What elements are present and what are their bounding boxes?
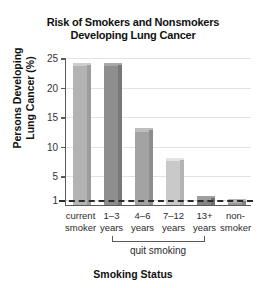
- x-axis-category-line: non-: [220, 210, 251, 222]
- bar-side-face: [87, 65, 91, 205]
- bar-side-face: [180, 160, 184, 205]
- quit-smoking-bracket-label: quit smoking: [82, 245, 235, 256]
- y-axis-tick-mark: [61, 58, 66, 60]
- bar-7-12-years: [166, 158, 184, 205]
- x-axis-category-line: years: [158, 222, 189, 234]
- x-axis-category-line: smoker: [65, 222, 96, 234]
- y-axis-title: Persons Developing Lung Cancer (%): [11, 18, 41, 178]
- y-axis-tick-mark: [61, 88, 66, 90]
- y-axis-tick-label: 5: [52, 171, 58, 182]
- y-axis-title-line-2: Lung Cancer (%): [24, 18, 37, 178]
- bar-1-3-years: [104, 63, 122, 205]
- x-axis-category-line: smoker: [220, 222, 251, 234]
- x-axis-category-label: non-smoker: [220, 210, 251, 233]
- y-gridline: [66, 147, 251, 148]
- x-axis-category-label: 4–6years: [127, 210, 158, 233]
- x-axis-title: Smoking Status: [0, 268, 266, 280]
- y-axis-tick-mark: [61, 147, 66, 149]
- x-axis-category-label: 13+years: [189, 210, 220, 233]
- y-gridline: [66, 117, 251, 118]
- bar-4-6-years: [135, 128, 153, 205]
- y-axis-title-line-1: Persons Developing: [11, 18, 24, 178]
- y-axis-tick-label: 15: [47, 112, 58, 123]
- y-axis-tick-label: 25: [47, 53, 58, 64]
- bar-side-face: [149, 130, 153, 205]
- threshold-dashed-line: [59, 200, 253, 202]
- x-axis-category-line: current: [65, 210, 96, 222]
- bar-side-face: [118, 65, 122, 205]
- y-gridline: [66, 176, 251, 177]
- bar-current-smoker: [73, 63, 91, 205]
- x-axis-category-line: 7–12: [158, 210, 189, 222]
- x-axis-category-line: 4–6: [127, 210, 158, 222]
- x-axis-category-label: currentsmoker: [65, 210, 96, 233]
- lung-cancer-risk-bar-chart: Risk of Smokers and Nonsmokers Developin…: [0, 0, 266, 288]
- y-axis-tick-mark: [61, 117, 66, 119]
- y-axis-tick-label: 10: [47, 141, 58, 152]
- x-axis-category-line: years: [96, 222, 127, 234]
- x-axis-category-line: 1–3: [96, 210, 127, 222]
- plot-area: 2520151051: [65, 58, 251, 206]
- x-axis-category-line: 13+: [189, 210, 220, 222]
- x-axis-category-line: years: [127, 222, 158, 234]
- y-axis-tick-label: 1: [52, 195, 58, 206]
- quit-smoking-bracket: [112, 236, 205, 242]
- x-axis-category-label: 7–12years: [158, 210, 189, 233]
- x-axis-category-line: years: [189, 222, 220, 234]
- y-axis-tick-mark: [61, 176, 66, 178]
- y-axis-tick-label: 20: [47, 82, 58, 93]
- y-gridline: [66, 88, 251, 89]
- x-axis-category-label: 1–3years: [96, 210, 127, 233]
- y-gridline: [66, 58, 251, 59]
